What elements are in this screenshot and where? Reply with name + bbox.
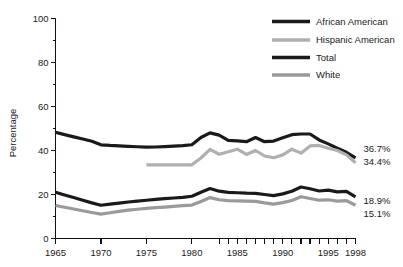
x-tick-label: 1970 [90,247,111,258]
y-tick-label: 40 [38,145,49,156]
y-axis-tick-labels: 020406080100 [33,13,49,244]
x-tick-label: 1980 [181,247,202,258]
x-axis-ticks [56,239,356,244]
series-end-labels: 36.7%34.4%18.9%15.1% [364,143,391,219]
series-line-total [56,187,356,205]
y-axis-title: Percentage [7,109,18,158]
chart-figure: 020406080100 196519701975198019851990199… [0,0,403,267]
series-end-label: 15.1% [364,208,391,219]
legend-label: African American [316,16,388,27]
series-end-label: 34.4% [364,156,391,167]
y-tick-label: 100 [33,13,49,24]
chart-legend: African AmericanHispanic AmericanTotalWh… [272,16,395,81]
series-line-hispanic-american [146,145,355,164]
line-chart: 020406080100 196519701975198019851990199… [0,0,403,267]
series-end-label: 36.7% [364,143,391,154]
x-axis-tick-labels: 19651970197519801985199019951998 [45,247,366,258]
x-tick-label: 1975 [136,247,157,258]
x-tick-label: 1985 [227,247,248,258]
legend-label: Hispanic American [316,34,395,45]
y-tick-label: 60 [38,101,49,112]
chart-series-group [56,132,356,214]
y-tick-label: 80 [38,57,49,68]
x-tick-label: 1998 [345,247,366,258]
chart-axes [51,19,356,244]
x-tick-label: 1995 [318,247,339,258]
legend-label: White [316,69,340,80]
x-tick-label: 1990 [272,247,293,258]
y-tick-label: 20 [38,189,49,200]
legend-label: Total [316,52,336,63]
y-tick-label: 0 [43,233,48,244]
series-end-label: 18.9% [364,195,391,206]
x-tick-label: 1965 [45,247,66,258]
